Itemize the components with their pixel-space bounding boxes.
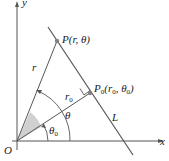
r0-label: r0 (65, 91, 73, 104)
diagram-graphics (0, 0, 169, 161)
y-axis-arrow-icon (15, 1, 19, 7)
point-P-label: P(r, θ) (62, 34, 90, 45)
point-P0-label: P0(r0, θ0) (94, 83, 134, 96)
line-L-label: L (112, 112, 118, 123)
shaded-angle-wedge (17, 112, 41, 141)
r-label: r (32, 62, 36, 73)
theta0-label: θ0 (49, 125, 58, 138)
point-P (55, 39, 59, 43)
origin-label: O (4, 145, 12, 156)
polar-line-diagram: y x O P(r, θ) P0(r0, θ0) r r0 θ θ0 L (0, 0, 169, 161)
y-axis-label: y (22, 0, 27, 8)
point-P0 (88, 91, 92, 95)
theta-label: θ (65, 110, 70, 121)
x-axis-label: x (160, 136, 165, 147)
